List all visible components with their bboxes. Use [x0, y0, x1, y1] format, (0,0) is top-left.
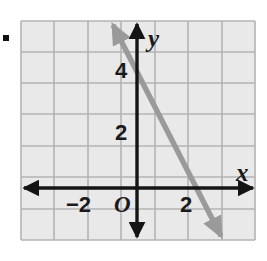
graph-canvas [0, 0, 267, 261]
x-tick-label-negative-2: −2 [66, 194, 91, 216]
y-axis-label: y [148, 26, 159, 51]
origin-label: O [114, 193, 131, 216]
coordinate-plane-figure: y x O 4 2 −2 2 [0, 0, 267, 261]
y-tick-label-2: 2 [115, 122, 127, 144]
x-axis-label: x [236, 160, 249, 185]
x-tick-label-2: 2 [180, 194, 192, 216]
y-tick-label-4: 4 [115, 60, 127, 82]
